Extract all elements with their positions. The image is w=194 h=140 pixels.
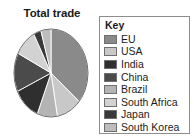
legend-item: India (104, 58, 187, 71)
legend-box: Key EUUSAIndiaChinaBrazilSouth AfricaJap… (99, 16, 190, 134)
legend-item: USA (104, 46, 187, 59)
legend-swatch-icon (104, 85, 117, 94)
legend-item-list: EUUSAIndiaChinaBrazilSouth AfricaJapanSo… (104, 33, 187, 134)
legend-swatch-icon (104, 35, 117, 44)
legend-swatch-icon (104, 123, 117, 132)
pie-chart-figure: Total trade Key EUUSAIndiaChinaBrazilSou… (0, 0, 194, 140)
legend-item-label: USA (121, 46, 143, 57)
legend-swatch-icon (104, 98, 117, 107)
legend-item-label: China (121, 72, 148, 83)
legend-item-label: Japan (121, 109, 150, 120)
legend-swatch-icon (104, 73, 117, 82)
legend-item: Japan (104, 109, 187, 122)
pie-svg (13, 28, 89, 118)
legend-item: South Korea (104, 121, 187, 134)
legend-item-label: India (121, 59, 144, 70)
legend-item: South Africa (104, 96, 187, 109)
legend-swatch-icon (104, 60, 117, 69)
pie-chart-plot (13, 28, 89, 118)
legend-swatch-icon (104, 47, 117, 56)
legend-item: China (104, 71, 187, 84)
legend-item-label: South Korea (121, 122, 179, 133)
legend-swatch-icon (104, 110, 117, 119)
chart-title: Total trade (6, 7, 98, 19)
legend-heading: Key (105, 19, 124, 31)
legend-item-label: South Africa (121, 97, 178, 108)
legend-item: EU (104, 33, 187, 46)
legend-item-label: Brazil (121, 84, 147, 95)
legend-item: Brazil (104, 83, 187, 96)
legend-item-label: EU (121, 34, 136, 45)
